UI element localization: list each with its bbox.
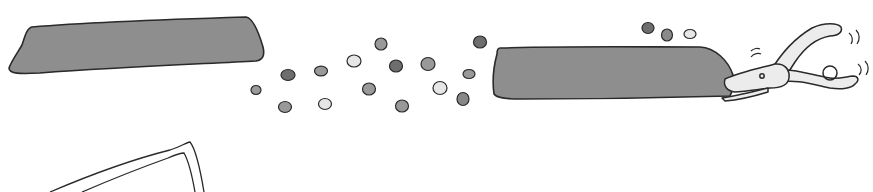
dot	[684, 30, 696, 39]
dot	[347, 55, 361, 67]
dot	[315, 66, 328, 76]
dot	[375, 38, 387, 50]
dot	[457, 93, 469, 106]
dot	[363, 83, 376, 95]
dot	[279, 102, 292, 113]
dot	[642, 23, 654, 34]
dot	[281, 70, 295, 81]
craft-illustration	[0, 0, 873, 192]
dot	[662, 29, 673, 41]
hole-punch-icon	[722, 24, 858, 101]
dot	[251, 86, 261, 95]
dot	[463, 70, 475, 79]
drawing-frame	[50, 142, 204, 192]
dot	[474, 36, 487, 48]
dot	[390, 60, 403, 72]
dot	[396, 100, 409, 112]
dot	[421, 58, 435, 71]
paper-strip-left	[9, 17, 264, 73]
dot	[433, 82, 447, 95]
dot	[319, 99, 332, 110]
paper-strip-right	[493, 47, 733, 99]
